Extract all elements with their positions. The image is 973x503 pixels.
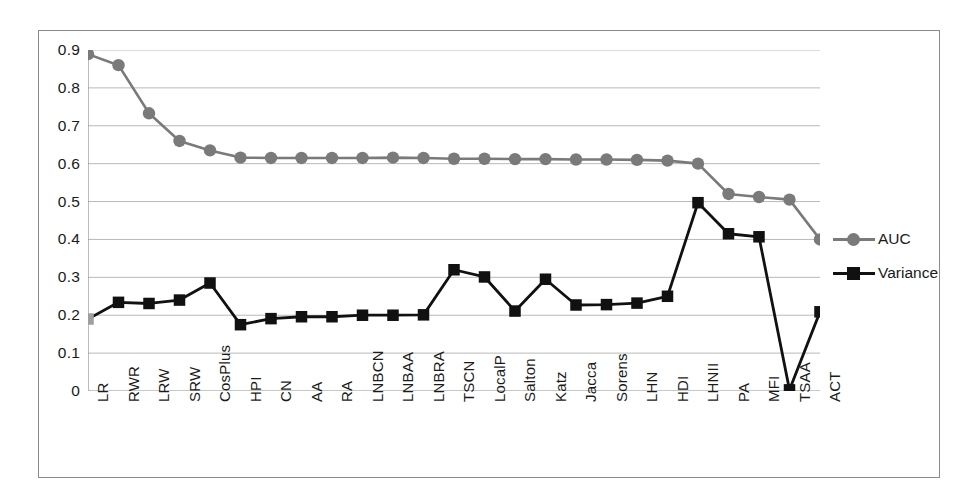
- data-point-auc-katz[interactable]: [539, 153, 551, 165]
- x-axis-tick-label: Katz: [552, 371, 569, 402]
- data-point-auc-lnbcn[interactable]: [356, 152, 368, 164]
- data-point-variance-cosplus[interactable]: [204, 277, 216, 289]
- legend-item-variance[interactable]: Variance: [833, 256, 943, 290]
- y-axis-tick-label: 0: [71, 382, 80, 400]
- x-axis-tick-label: LHNII: [704, 363, 721, 402]
- data-point-variance-act[interactable]: [814, 306, 820, 318]
- data-point-variance-lhnii[interactable]: [692, 197, 704, 209]
- y-axis-tick-label: 0.3: [58, 268, 80, 286]
- x-axis-tick-label: LocalP: [491, 355, 508, 402]
- y-axis-tick-label: 0.6: [58, 155, 80, 173]
- y-axis-tick-label: 0.7: [58, 117, 80, 135]
- plot-area: [88, 50, 820, 391]
- data-point-variance-tscn[interactable]: [448, 264, 460, 276]
- data-point-auc-rwr[interactable]: [112, 59, 124, 71]
- x-axis-tick-label: SRW: [186, 367, 203, 402]
- x-axis-tick-label: Salton: [521, 358, 538, 402]
- data-point-auc-lrw[interactable]: [143, 107, 155, 119]
- data-point-variance-lhn[interactable]: [631, 297, 643, 309]
- data-point-auc-hpi[interactable]: [234, 151, 246, 163]
- data-point-auc-sorens[interactable]: [600, 153, 612, 165]
- x-axis-tick-label: MFI: [765, 376, 782, 402]
- x-axis-tick-label: HPI: [247, 376, 264, 402]
- data-point-auc-act[interactable]: [814, 233, 820, 245]
- y-axis-tick-label: 0.4: [58, 230, 80, 248]
- legend-circle-icon: [847, 233, 860, 246]
- series-line-auc: [88, 54, 820, 239]
- legend-label-variance: Variance: [875, 264, 938, 282]
- data-point-auc-ra[interactable]: [326, 152, 338, 164]
- x-axis-tick-label: CN: [277, 380, 294, 402]
- x-axis-tick-label: AA: [308, 382, 325, 402]
- data-point-auc-tscn[interactable]: [448, 153, 460, 165]
- chart-legend: AUC Variance: [833, 222, 943, 290]
- legend-marker-square-icon: [833, 264, 875, 282]
- legend-marker-circle-icon: [833, 230, 875, 248]
- x-axis-tick-label: CosPlus: [216, 345, 233, 402]
- y-axis-tick-label: 0.9: [58, 41, 80, 59]
- x-axis-tick-label: ACT: [826, 371, 843, 402]
- legend-label-auc: AUC: [875, 230, 911, 248]
- y-axis-tick-label: 0.1: [58, 344, 80, 362]
- data-point-variance-rwr[interactable]: [113, 297, 125, 309]
- data-point-variance-lnbra[interactable]: [418, 309, 430, 321]
- chart-screenshot: 0.90.80.70.60.50.40.30.20.10 LRRWRLRWSRW…: [0, 0, 973, 503]
- data-point-variance-lnbaa[interactable]: [387, 309, 399, 321]
- data-point-variance-ra[interactable]: [326, 311, 338, 323]
- data-point-variance-tsaa[interactable]: [784, 384, 796, 391]
- data-point-auc-lr[interactable]: [88, 50, 94, 60]
- x-axis-tick-labels: LRRWRLRWSRWCosPlusHPICNAARALNBCNLNBAALNB…: [88, 396, 820, 476]
- data-point-auc-srw[interactable]: [173, 135, 185, 147]
- x-axis-tick-label: Jacca: [582, 362, 599, 402]
- y-axis-tick-label: 0.8: [58, 79, 80, 97]
- data-point-variance-lrw[interactable]: [143, 298, 155, 310]
- x-axis-tick-label: RWR: [125, 366, 142, 402]
- x-axis-tick-label: LRW: [155, 368, 172, 402]
- data-point-auc-lhnii[interactable]: [692, 157, 704, 169]
- y-axis-tick-labels: 0.90.80.70.60.50.40.30.20.10: [38, 0, 80, 503]
- data-point-variance-hpi[interactable]: [235, 319, 247, 331]
- data-point-auc-lnbra[interactable]: [417, 152, 429, 164]
- data-point-auc-tsaa[interactable]: [783, 193, 795, 205]
- data-point-variance-salton[interactable]: [509, 305, 521, 317]
- data-point-auc-cosplus[interactable]: [204, 144, 216, 156]
- data-point-auc-pa[interactable]: [722, 188, 734, 200]
- plot-svg: [88, 50, 820, 391]
- x-axis-tick-label: LNBAA: [399, 352, 416, 402]
- data-point-auc-localp[interactable]: [478, 153, 490, 165]
- data-point-variance-localp[interactable]: [479, 271, 491, 283]
- data-point-variance-lr[interactable]: [88, 313, 94, 325]
- x-axis-tick-label: TSCN: [460, 360, 477, 402]
- x-axis-tick-label: HDI: [674, 376, 691, 402]
- data-point-auc-lhn[interactable]: [631, 154, 643, 166]
- x-axis-tick-label: LNBCN: [369, 350, 386, 402]
- data-point-auc-jacca[interactable]: [570, 153, 582, 165]
- x-axis-tick-label: PA: [735, 383, 752, 402]
- data-point-variance-sorens[interactable]: [601, 299, 613, 311]
- y-axis-tick-label: 0.5: [58, 193, 80, 211]
- data-point-auc-hdi[interactable]: [661, 154, 673, 166]
- data-point-variance-srw[interactable]: [174, 294, 186, 306]
- data-point-auc-aa[interactable]: [295, 152, 307, 164]
- legend-item-auc[interactable]: AUC: [833, 222, 943, 256]
- data-point-variance-lnbcn[interactable]: [357, 309, 369, 321]
- data-point-variance-pa[interactable]: [723, 228, 735, 240]
- x-axis-tick-label: LHN: [643, 371, 660, 402]
- data-point-auc-salton[interactable]: [509, 153, 521, 165]
- x-axis-tick-label: RA: [338, 381, 355, 402]
- x-axis-tick-label: Sorens: [613, 353, 630, 402]
- data-point-auc-mfi[interactable]: [753, 191, 765, 203]
- data-point-variance-aa[interactable]: [296, 311, 308, 323]
- x-axis-tick-label: TSAA: [796, 362, 813, 402]
- x-axis-tick-label: LR: [94, 382, 111, 402]
- data-point-variance-jacca[interactable]: [570, 299, 582, 311]
- data-point-variance-mfi[interactable]: [753, 231, 765, 243]
- data-point-variance-hdi[interactable]: [662, 291, 674, 303]
- x-axis-tick-label: LNBRA: [430, 351, 447, 402]
- data-point-variance-katz[interactable]: [540, 273, 552, 285]
- data-point-auc-lnbaa[interactable]: [387, 151, 399, 163]
- data-point-auc-cn[interactable]: [265, 152, 277, 164]
- y-axis-tick-label: 0.2: [58, 306, 80, 324]
- data-point-variance-cn[interactable]: [265, 313, 277, 325]
- legend-square-icon: [847, 267, 860, 280]
